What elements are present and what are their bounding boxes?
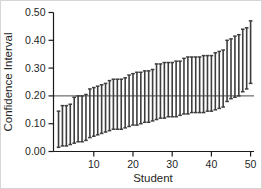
y-tick-label: 0.40 — [25, 34, 46, 46]
x-tick-label: 40 — [206, 158, 218, 170]
x-tick-label: 50 — [245, 158, 257, 170]
y-tick-label: 0.10 — [25, 117, 46, 129]
y-tick-label: 0.30 — [25, 62, 46, 74]
chart-canvas: 0.000.100.200.300.400.501020304050 Confi… — [1, 1, 261, 188]
y-axis-title: Confidence Interval — [2, 32, 14, 131]
x-tick-label: 20 — [127, 158, 139, 170]
y-tick-label: 0.20 — [25, 89, 46, 101]
x-tick-label: 10 — [88, 158, 100, 170]
plot-layer: 0.000.100.200.300.400.501020304050 — [25, 6, 257, 170]
y-tick-label: 0.50 — [25, 6, 46, 18]
confidence-interval-figure: 0.000.100.200.300.400.501020304050 Confi… — [0, 0, 262, 189]
x-tick-label: 30 — [166, 158, 178, 170]
y-tick-label: 0.00 — [25, 145, 46, 157]
x-axis-title: Student — [133, 172, 173, 184]
